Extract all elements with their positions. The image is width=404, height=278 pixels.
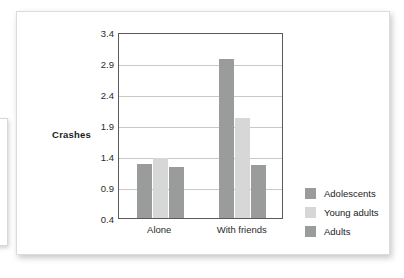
bar <box>137 164 152 218</box>
bar-chart: Crashes 0.40.91.41.92.42.93.4 AloneWith … <box>17 12 391 256</box>
y-axis-tick-labels: 0.40.91.41.92.42.93.4 <box>73 12 114 256</box>
legend-item: Young adults <box>305 203 379 222</box>
legend-item-label: Young adults <box>324 207 379 218</box>
bar <box>251 165 266 218</box>
legend-swatch-icon <box>305 226 316 237</box>
figure-card: Crashes 0.40.91.41.92.42.93.4 AloneWith … <box>16 11 390 255</box>
y-axis-tick-label: 2.4 <box>73 90 114 101</box>
bar <box>169 167 184 218</box>
gridline <box>119 65 282 66</box>
adjacent-panel-edge <box>0 118 8 246</box>
legend-item-label: Adults <box>324 226 350 237</box>
legend-item: Adults <box>305 222 379 241</box>
x-axis-tick-label: Alone <box>147 224 171 235</box>
bar <box>235 118 250 218</box>
gridline <box>119 96 282 97</box>
y-axis-tick-label: 0.4 <box>73 214 114 225</box>
y-axis-tick-label: 2.9 <box>73 59 114 70</box>
y-axis-tick-label: 1.9 <box>73 121 114 132</box>
plot-area <box>118 33 283 219</box>
legend-swatch-icon <box>305 188 316 199</box>
y-axis-tick-label: 3.4 <box>73 28 114 39</box>
x-axis-tick-label: With friends <box>217 224 267 235</box>
legend-item: Adolescents <box>305 184 379 203</box>
bar <box>219 59 234 218</box>
bar <box>153 158 168 218</box>
gridline <box>119 127 282 128</box>
y-axis-tick-label: 1.4 <box>73 152 114 163</box>
legend-item-label: Adolescents <box>324 188 376 199</box>
gridline <box>119 158 282 159</box>
y-axis-tick-label: 0.9 <box>73 183 114 194</box>
legend-swatch-icon <box>305 207 316 218</box>
chart-legend: AdolescentsYoung adultsAdults <box>305 184 379 241</box>
